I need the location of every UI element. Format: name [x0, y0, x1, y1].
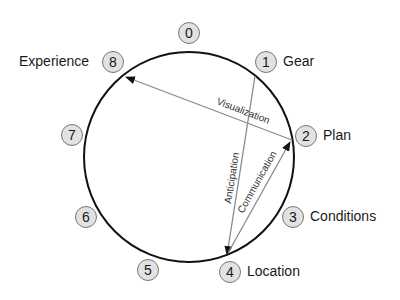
node-7-badge: 7	[61, 124, 83, 146]
node-2-label: Plan	[323, 127, 351, 143]
cycle-diagram: Visualization Anticipation Communication	[0, 0, 400, 300]
node-3-label: Conditions	[310, 208, 376, 224]
node-1-label: Gear	[283, 53, 314, 69]
node-6-badge: 6	[75, 206, 97, 228]
node-0-badge: 0	[178, 22, 200, 44]
node-4-badge: 4	[219, 261, 241, 283]
node-8-badge: 8	[102, 51, 124, 73]
node-2-badge: 2	[295, 125, 317, 147]
cycle-ring	[84, 52, 294, 262]
node-8-label: Experience	[19, 53, 89, 69]
node-1-badge: 1	[255, 51, 277, 73]
node-5-badge: 5	[137, 259, 159, 281]
node-3-badge: 3	[282, 206, 304, 228]
edge-label-anticipation: Anticipation	[222, 152, 241, 205]
node-4-label: Location	[247, 263, 300, 279]
